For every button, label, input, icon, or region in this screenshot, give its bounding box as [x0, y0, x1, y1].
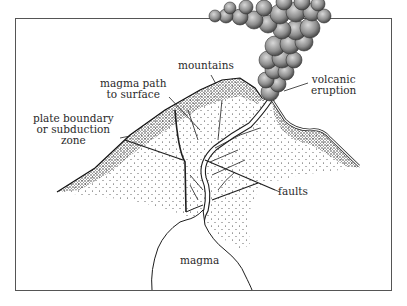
label-volcanic-line2: eruption [311, 85, 356, 96]
label-volcanic-eruption: volcanic eruption [311, 74, 356, 96]
label-mountains: mountains [178, 60, 234, 71]
label-plate-line3: zone [33, 135, 114, 146]
label-magma: magma [180, 255, 219, 266]
volcano-diagram: mountains magma path to surface plate bo… [0, 0, 407, 306]
label-magma-path-line2: to surface [100, 89, 166, 100]
label-faults: faults [278, 186, 308, 197]
label-plate-boundary: plate boundary or subduction zone [33, 113, 114, 146]
label-magma-path: magma path to surface [100, 78, 166, 100]
